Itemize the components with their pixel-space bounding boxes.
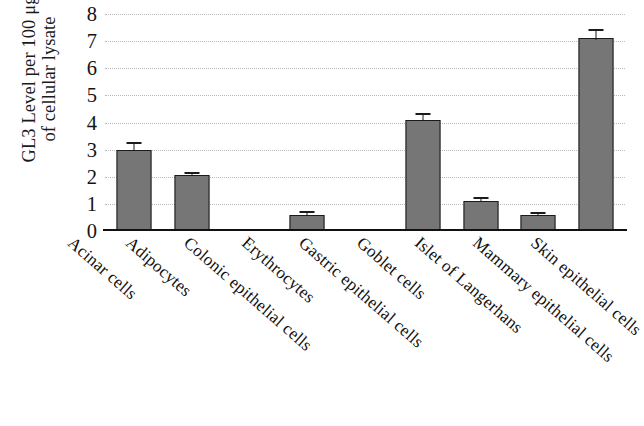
bar-slot [105,14,163,231]
error-bar-cap [126,142,141,144]
bar-slot [163,14,221,231]
bar-slot [452,14,510,231]
error-bar [133,144,134,151]
error-bar-cap [300,211,315,213]
error-bar [596,31,597,40]
error-bar [422,115,423,121]
y-tick-label: 1 [71,194,97,215]
y-axis-title-line-1: GL3 Level per 100 μg [20,0,40,163]
bars-group [105,14,625,231]
bar [174,175,209,231]
y-tick-label: 8 [71,4,97,25]
y-tick-label: 3 [71,139,97,160]
bar [463,201,498,231]
bar [579,38,614,231]
bar-slot [509,14,567,231]
y-tick-label: 5 [71,85,97,106]
y-axis-title-line-2: of cellular lysate [40,16,60,141]
error-bar-cap [473,197,488,199]
y-tick-label: 7 [71,31,97,52]
y-tick-label: 2 [71,167,97,188]
x-tick-label: Islet of Langerhans [412,234,526,337]
error-bar-cap [184,172,199,174]
bar-slot [278,14,336,231]
error-bar [307,213,308,215]
bar-slot [394,14,452,231]
error-bar [538,214,539,215]
bar-slot [221,14,279,231]
y-tick-label: 4 [71,112,97,133]
bar [405,120,440,231]
error-bar [480,199,481,201]
bar-slot [336,14,394,231]
error-bar-cap [531,212,546,214]
y-tick-label: 6 [71,58,97,79]
error-bar-cap [589,29,604,31]
x-axis-category-labels: Acinar cellsAdipocytesColonic epithelial… [105,234,625,426]
bar-slot [567,14,625,231]
error-bar-cap [415,113,430,115]
y-axis-title: GL3 Level per 100 μg of cellular lysate [17,0,63,197]
error-bar [191,174,192,176]
bar [116,150,151,231]
plot-area: 876543210 [105,14,625,231]
x-axis-line [103,229,627,231]
